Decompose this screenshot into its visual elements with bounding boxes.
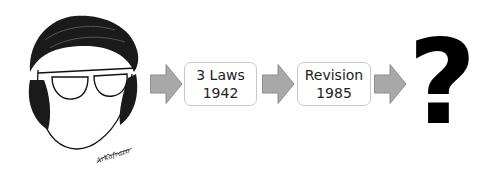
step-box-revision: Revision 1985 bbox=[297, 62, 371, 106]
step-title: Revision bbox=[305, 66, 364, 84]
step-box-3-laws: 3 Laws 1942 bbox=[184, 62, 257, 106]
portrait-sketch: Arkafrazo bbox=[0, 0, 150, 175]
question-mark: ? bbox=[408, 22, 474, 142]
signature: Arkafrazo bbox=[94, 147, 131, 166]
step-year: 1942 bbox=[203, 84, 239, 102]
arrow-icon bbox=[262, 64, 295, 104]
arrow-icon bbox=[374, 64, 407, 104]
step-title: 3 Laws bbox=[196, 66, 244, 84]
arrow-icon bbox=[150, 64, 183, 104]
step-year: 1985 bbox=[316, 84, 352, 102]
